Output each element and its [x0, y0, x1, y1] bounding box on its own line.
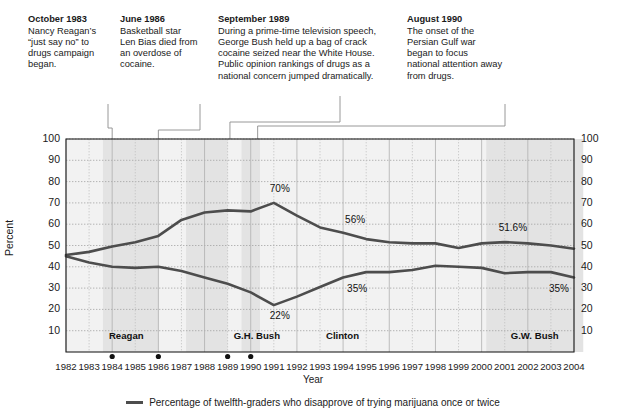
- x-tick-label: 1999: [446, 361, 472, 372]
- y-tick-label-left: 90: [32, 153, 60, 165]
- y-tick-label-right: 70: [581, 196, 609, 208]
- y-tick-label-left: 20: [32, 302, 60, 314]
- legend-item: Percentage of twelfth-graders who disapp…: [126, 397, 500, 408]
- x-tick-label: 1991: [261, 361, 287, 372]
- x-tick-label: 1992: [284, 361, 310, 372]
- point-label: 70%: [270, 183, 290, 194]
- annotation-leader-line: [258, 104, 505, 139]
- y-tick-label-left: 70: [32, 196, 60, 208]
- era-label-g-w-bush: G.W. Bush: [511, 330, 559, 341]
- legend-swatch: [126, 401, 143, 404]
- era-label-clinton: Clinton: [326, 330, 359, 341]
- plot-canvas: [0, 0, 626, 415]
- point-label: 51.6%: [499, 222, 527, 233]
- x-tick-label: 1986: [145, 361, 171, 372]
- x-tick-label: 1983: [76, 361, 102, 372]
- x-tick-label: 2003: [538, 361, 564, 372]
- x-tick-label: 2002: [515, 361, 541, 372]
- election-dot: [156, 354, 161, 359]
- legend-label: Percentage of twelfth-graders who disapp…: [149, 397, 500, 408]
- x-axis-title: Year: [0, 374, 626, 385]
- y-tick-label-right: 80: [581, 175, 609, 187]
- y-tick-label-left: 10: [32, 324, 60, 336]
- point-label: 35%: [549, 283, 569, 294]
- election-dot: [110, 354, 115, 359]
- point-label: 22%: [270, 310, 290, 321]
- x-tick-label: 1996: [376, 361, 402, 372]
- x-tick-label: 1997: [399, 361, 425, 372]
- x-tick-label: 1995: [353, 361, 379, 372]
- y-tick-label-left: 30: [32, 281, 60, 293]
- x-tick-label: 1984: [99, 361, 125, 372]
- y-tick-label-right: 10: [581, 324, 609, 336]
- point-label: 35%: [347, 283, 367, 294]
- y-tick-label-left: 60: [32, 217, 60, 229]
- y-tick-label-right: 90: [581, 153, 609, 165]
- y-tick-label-right: 30: [581, 281, 609, 293]
- era-label-g-h-bush: G.H. Bush: [234, 330, 280, 341]
- x-tick-label: 2004: [561, 361, 587, 372]
- annotation-leader-line: [108, 104, 112, 139]
- x-tick-label: 1989: [215, 361, 241, 372]
- y-tick-label-left: 50: [32, 239, 60, 251]
- drug-attitudes-timeline-figure: October 1983 Nancy Reagan’s “just say no…: [0, 0, 626, 415]
- era-label-reagan: Reagan: [109, 330, 144, 341]
- annotation-leader-line: [158, 104, 200, 139]
- x-tick-label: 1988: [192, 361, 218, 372]
- x-tick-label: 2001: [492, 361, 518, 372]
- y-tick-label-right: 60: [581, 217, 609, 229]
- election-dot: [225, 354, 230, 359]
- y-tick-label-right: 20: [581, 302, 609, 314]
- x-tick-label: 1985: [122, 361, 148, 372]
- x-tick-label: 1990: [238, 361, 264, 372]
- election-dot: [248, 354, 253, 359]
- y-tick-label-right: 50: [581, 239, 609, 251]
- point-label: 56%: [345, 214, 365, 225]
- y-tick-label-left: 100: [32, 132, 60, 144]
- y-tick-label-left: 40: [32, 260, 60, 272]
- y-tick-label-left: 80: [32, 175, 60, 187]
- annotation-leader-line: [230, 96, 340, 139]
- legend: Percentage of twelfth-graders who disapp…: [0, 395, 626, 408]
- x-tick-label: 1994: [330, 361, 356, 372]
- y-tick-label-right: 40: [581, 260, 609, 272]
- y-axis-title: Percent: [3, 220, 15, 256]
- y-tick-label-right: 100: [581, 132, 609, 144]
- x-tick-label: 2000: [469, 361, 495, 372]
